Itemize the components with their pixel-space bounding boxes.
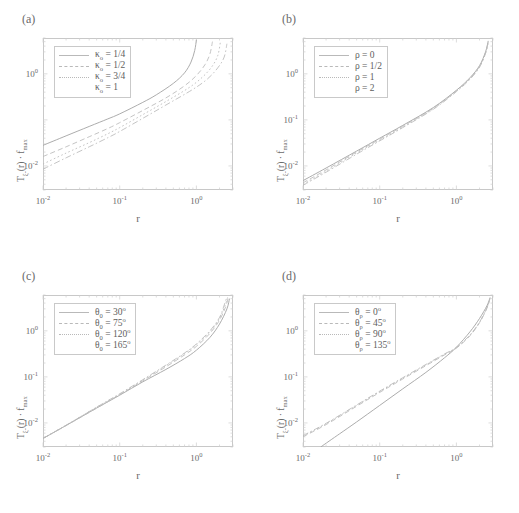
ytick-exponent: 0	[35, 67, 38, 74]
ytick-base: 10	[284, 115, 293, 125]
xtick-label: 10-2	[286, 194, 320, 206]
legend-item: ρ = 0	[319, 50, 382, 61]
x-axis-label: r	[303, 469, 493, 481]
xtick-label: 10-1	[103, 451, 137, 463]
figure-root: (a)10-210-110010010-2rTξ-(r) · fmaxκo = …	[0, 0, 519, 513]
legend-key-dotted	[319, 334, 349, 335]
legend-key-dashdot	[59, 345, 89, 346]
legend-item: ρ = 2	[319, 83, 382, 94]
legend-key-solid	[319, 312, 349, 313]
ytick-exponent: -2	[33, 416, 38, 423]
ytick-exponent: -1	[293, 370, 298, 377]
panel-c: (c)10-210-110010010-110-2rTξ-(r) · fmaxθ…	[0, 257, 259, 513]
xtick-exponent: -1	[381, 194, 386, 201]
ytick-base: 10	[26, 326, 35, 336]
y-axis-label: Tξ-(r) · fmax	[16, 139, 28, 182]
legend-key-solid	[59, 55, 89, 56]
legend-label: ρ = 2	[355, 83, 375, 94]
legend-key-dashdot	[319, 88, 349, 89]
xtick-exponent: -2	[45, 451, 50, 458]
xtick-base: 10	[296, 453, 305, 463]
y-axis-label: Tξ-(r) · fmax	[16, 396, 28, 439]
y-axis-label-text: Tξ-(r) · fmax	[276, 396, 286, 439]
xtick-exponent: -2	[305, 451, 310, 458]
x-axis-label: r	[303, 212, 493, 224]
ytick-label: 10-1	[272, 370, 298, 382]
legend-label: ρ = 1/2	[355, 61, 382, 72]
legend-key-dotted	[319, 77, 349, 78]
xtick-label: 10-2	[286, 451, 320, 463]
xtick-exponent: 0	[199, 194, 202, 201]
ytick-base: 10	[24, 372, 33, 382]
legend-key-dotted	[59, 77, 89, 78]
xtick-base: 10	[296, 196, 305, 206]
xtick-label: 100	[439, 194, 473, 206]
ytick-label: 100	[12, 67, 38, 79]
xtick-label: 100	[179, 451, 213, 463]
legend-c: θ0 = 30oθ0 = 75oθ0 = 120oθ0 = 165o	[54, 303, 136, 355]
ytick-exponent: 0	[295, 67, 298, 74]
legend-item: ρ = 1/2	[319, 61, 382, 72]
xtick-base: 10	[450, 196, 459, 206]
legend-item: θρ = 135o	[319, 340, 390, 351]
legend-label: κo = 1	[95, 82, 118, 96]
legend-d: θρ = 0oθρ = 45oθρ = 90oθρ = 135o	[314, 303, 396, 355]
ytick-label: 10-1	[12, 370, 38, 382]
ytick-exponent: -2	[293, 159, 298, 166]
ytick-exponent: -1	[293, 113, 298, 120]
legend-key-dashdot	[319, 345, 349, 346]
xtick-exponent: -2	[45, 194, 50, 201]
x-axis-label: r	[43, 469, 233, 481]
panel-a: (a)10-210-110010010-2rTξ-(r) · fmaxκo = …	[0, 0, 259, 256]
ytick-label: 100	[272, 67, 298, 79]
xtick-exponent: -1	[121, 194, 126, 201]
ytick-label: 100	[272, 324, 298, 336]
xtick-base: 10	[450, 453, 459, 463]
xtick-label: 100	[179, 194, 213, 206]
xtick-exponent: -1	[121, 451, 126, 458]
legend-b: ρ = 0ρ = 1/2ρ = 1ρ = 2	[314, 46, 388, 98]
ytick-label: 10-1	[272, 113, 298, 125]
legend-key-dashed	[319, 66, 349, 67]
legend-key-solid	[59, 312, 89, 313]
legend-key-solid	[319, 55, 349, 56]
y-axis-label-text: Tξ-(r) · fmax	[16, 139, 26, 182]
ytick-base: 10	[286, 69, 295, 79]
legend-key-dashed	[59, 66, 89, 67]
xtick-exponent: -1	[381, 451, 386, 458]
xtick-exponent: 0	[459, 194, 462, 201]
xtick-label: 100	[439, 451, 473, 463]
y-axis-label: Tξ-(r) · fmax	[276, 139, 288, 182]
legend-item: θ0 = 165o	[59, 340, 130, 351]
ytick-exponent: -1	[33, 370, 38, 377]
legend-key-dashed	[319, 323, 349, 324]
legend-key-dashdot	[59, 88, 89, 89]
xtick-exponent: 0	[199, 451, 202, 458]
xtick-label: 10-2	[26, 451, 60, 463]
xtick-label: 10-2	[26, 194, 60, 206]
panel-d: (d)10-210-110010010-110-2rTξ-(r) · fmaxθ…	[260, 257, 519, 513]
legend-a: κo = 1/4κo = 1/2κo = 3/4κo = 1	[54, 46, 131, 98]
legend-key-dashed	[59, 323, 89, 324]
xtick-base: 10	[36, 453, 45, 463]
ytick-base: 10	[26, 69, 35, 79]
ytick-exponent: -2	[33, 159, 38, 166]
legend-label: ρ = 0	[355, 50, 375, 61]
xtick-label: 10-1	[363, 194, 397, 206]
y-axis-label-text: Tξ-(r) · fmax	[276, 139, 286, 182]
y-axis-label-text: Tξ-(r) · fmax	[16, 396, 26, 439]
y-axis-label: Tξ-(r) · fmax	[276, 396, 288, 439]
legend-item: ρ = 1	[319, 72, 382, 83]
xtick-exponent: -2	[305, 194, 310, 201]
xtick-exponent: 0	[459, 451, 462, 458]
ytick-label: 100	[12, 324, 38, 336]
ytick-base: 10	[284, 372, 293, 382]
xtick-base: 10	[190, 453, 199, 463]
x-axis-label: r	[43, 212, 233, 224]
xtick-base: 10	[36, 196, 45, 206]
ytick-exponent: 0	[35, 324, 38, 331]
legend-key-dotted	[59, 334, 89, 335]
xtick-label: 10-1	[103, 194, 137, 206]
panel-b: (b)10-210-110010010-110-2rTξ-(r) · fmaxρ…	[260, 0, 519, 256]
legend-label: ρ = 1	[355, 72, 375, 83]
